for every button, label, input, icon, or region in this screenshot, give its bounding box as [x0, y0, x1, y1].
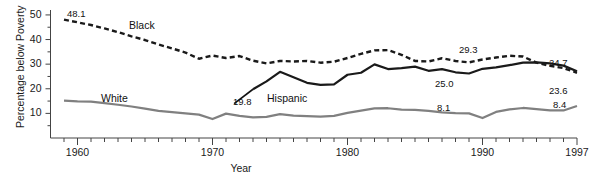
value-annotation: 19.8 — [233, 96, 252, 107]
chart-series — [64, 20, 577, 119]
y-tick-label: 30 — [20, 57, 42, 69]
series-label-black: Black — [129, 19, 155, 31]
series-line-hispanic — [253, 62, 577, 89]
value-annotation: 8.1 — [437, 102, 450, 113]
value-annotation: 48.1 — [67, 8, 86, 19]
x-tick-label: 1970 — [193, 146, 233, 158]
value-annotation: 29.3 — [459, 44, 478, 55]
y-tick-label: 40 — [20, 33, 42, 45]
series-label-white: White — [101, 92, 128, 104]
value-annotation: 23.6 — [549, 85, 568, 96]
value-annotation: 24.7 — [549, 57, 568, 68]
value-annotation: 25.0 — [435, 78, 454, 89]
x-tick-label: 1997 — [557, 146, 589, 158]
poverty-rate-line-chart: Percentage below Poverty Year 1020304050… — [0, 0, 589, 180]
x-axis-title: Year — [196, 162, 286, 174]
x-tick-label: 1990 — [463, 146, 503, 158]
x-tick-label: 1960 — [58, 146, 98, 158]
value-annotation: 8.4 — [553, 99, 566, 110]
y-tick-label: 10 — [20, 106, 42, 118]
y-tick-label: 50 — [20, 8, 42, 20]
series-label-hispanic: Hispanic — [267, 92, 307, 104]
y-tick-label: 20 — [20, 82, 42, 94]
x-tick-label: 1980 — [328, 146, 368, 158]
chart-axes — [46, 10, 578, 145]
series-line-white — [64, 101, 577, 119]
